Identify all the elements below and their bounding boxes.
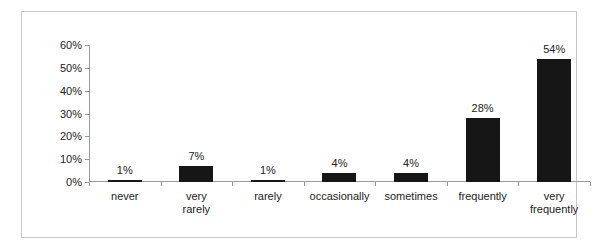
value-axis-tick-label: 10% (60, 154, 82, 165)
bar-value-label: 54% (543, 44, 565, 55)
category-axis-label: rarely (254, 190, 282, 203)
plot-area: 0%10%20%30%40%50%60% 1%never7%very rarel… (89, 45, 590, 182)
bar-group: 4%occasionally (304, 45, 376, 182)
category-axis-label: occasionally (310, 190, 370, 203)
bar-value-label: 7% (188, 151, 204, 162)
category-axis-tick (89, 182, 90, 186)
category-axis-tick (590, 182, 591, 186)
bar-value-label: 4% (403, 158, 419, 169)
value-axis-tick-label: 30% (60, 108, 82, 119)
bar-value-label: 1% (117, 165, 133, 176)
category-axis-label: very rarely (178, 190, 214, 216)
value-axis-tick-label: 60% (60, 40, 82, 51)
bar-group: 1%never (89, 45, 161, 182)
bar-group: 1%rarely (232, 45, 304, 182)
category-axis-label: never (111, 190, 139, 203)
bar[interactable] (108, 180, 142, 182)
value-axis-tick-label: 20% (60, 131, 82, 142)
bar-value-label: 28% (472, 103, 494, 114)
value-axis-tick-label: 50% (60, 62, 82, 73)
bar[interactable] (394, 173, 428, 182)
category-axis-tick (161, 182, 162, 186)
bar[interactable] (179, 166, 213, 182)
chart-frame: 0%10%20%30%40%50%60% 1%never7%very rarel… (21, 11, 577, 238)
category-axis-tick (375, 182, 376, 186)
bar-value-label: 1% (260, 165, 276, 176)
value-axis-tick-label: 40% (60, 85, 82, 96)
bar[interactable] (466, 118, 500, 182)
bar-group: 28%frequently (447, 45, 519, 182)
bar-group: 54%very frequently (518, 45, 590, 182)
bar-group: 4%sometimes (375, 45, 447, 182)
bar-group: 7%very rarely (161, 45, 233, 182)
bar[interactable] (537, 59, 571, 182)
bar[interactable] (251, 180, 285, 182)
category-axis-tick (447, 182, 448, 186)
category-axis-label: frequently (458, 190, 506, 203)
category-axis-label: sometimes (384, 190, 437, 203)
category-axis-label: very frequently (530, 190, 578, 216)
bar-value-label: 4% (332, 158, 348, 169)
value-axis-tick-label: 0% (66, 177, 82, 188)
category-axis-tick (304, 182, 305, 186)
category-axis-tick (518, 182, 519, 186)
bar[interactable] (322, 173, 356, 182)
category-axis-tick (232, 182, 233, 186)
